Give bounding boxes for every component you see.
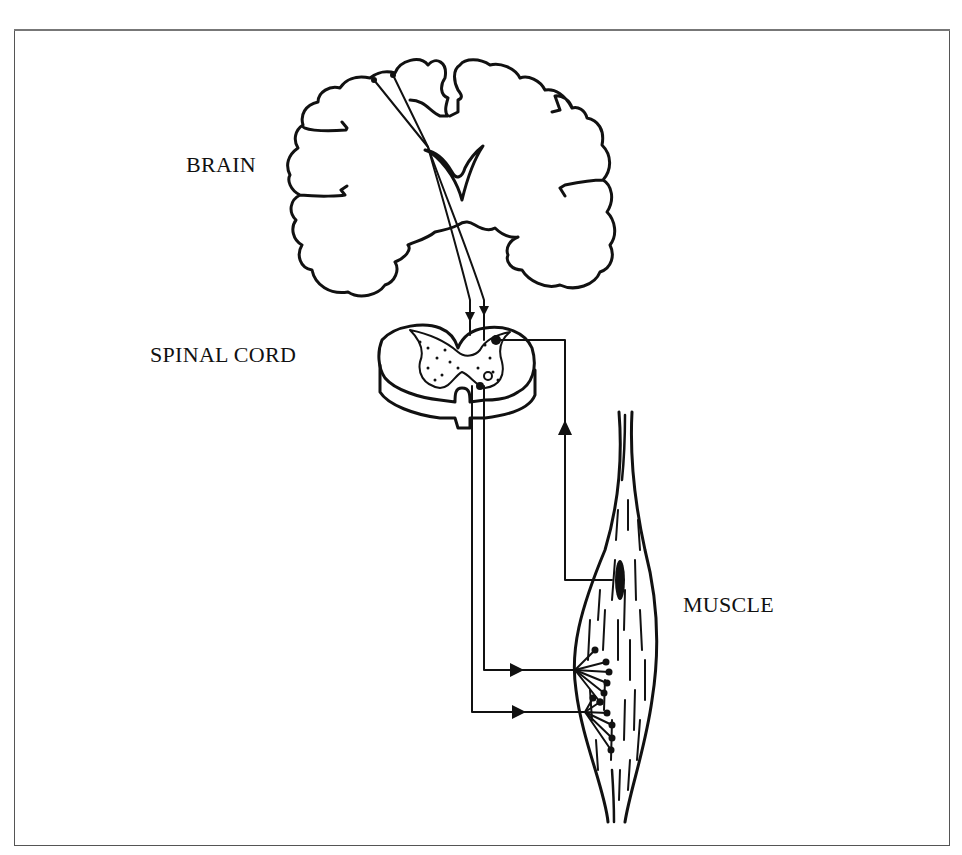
spinal-cord-top: [379, 325, 534, 402]
label-muscle: MUSCLE: [683, 592, 774, 618]
brain-left-hemisphere: [288, 60, 458, 296]
arrow-down-1: [465, 312, 475, 322]
arrow-right-2: [512, 705, 526, 719]
muscle-tendon-top: [622, 415, 625, 480]
brain-right-hemisphere: [450, 60, 615, 288]
muscle-spindle: [615, 560, 625, 600]
arrow-down-2: [479, 306, 489, 316]
sensory-afferent-fiber: [496, 340, 612, 580]
label-spinal-cord: SPINAL CORD: [150, 342, 296, 368]
label-brain: BRAIN: [186, 152, 256, 178]
arrow-up: [558, 420, 572, 435]
motor-neuron: [476, 382, 484, 390]
brain-ventricle: [425, 146, 483, 200]
interneuron-synapse: [484, 372, 492, 380]
motor-endplate-2: [585, 698, 612, 750]
arrow-right-1: [510, 663, 524, 677]
muscle-tendon-bottom: [612, 770, 614, 822]
descending-tract-1: [374, 80, 470, 335]
neural-pathway-diagram: [0, 0, 962, 855]
